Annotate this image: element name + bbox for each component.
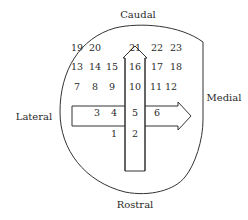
- label-rostral: Rostral: [117, 199, 154, 210]
- position-12: 12: [165, 81, 177, 92]
- label-caudal: Caudal: [120, 9, 156, 20]
- position-23: 23: [170, 42, 182, 53]
- position-6: 6: [154, 107, 160, 118]
- position-20: 20: [89, 42, 101, 53]
- position-5: 5: [132, 107, 138, 118]
- position-14: 14: [89, 61, 101, 72]
- position-15: 15: [106, 61, 118, 72]
- position-9: 9: [109, 81, 115, 92]
- position-4: 4: [111, 107, 117, 118]
- position-13: 13: [71, 61, 83, 72]
- position-7: 7: [74, 81, 80, 92]
- position-18: 18: [170, 61, 182, 72]
- position-10: 10: [129, 81, 141, 92]
- position-11: 11: [150, 81, 162, 92]
- position-8: 8: [92, 81, 98, 92]
- position-3: 3: [94, 107, 100, 118]
- label-lateral: Lateral: [16, 111, 52, 122]
- position-17: 17: [151, 61, 163, 72]
- position-2: 2: [132, 128, 138, 139]
- position-19: 19: [71, 42, 83, 53]
- position-16: 16: [129, 61, 141, 72]
- position-22: 22: [151, 42, 163, 53]
- position-1: 1: [111, 128, 117, 139]
- label-medial: Medial: [207, 92, 242, 103]
- electrode-map-diagram: Caudal Rostral Lateral Medial 1920212223…: [0, 0, 248, 220]
- position-21: 21: [129, 42, 141, 53]
